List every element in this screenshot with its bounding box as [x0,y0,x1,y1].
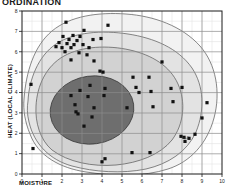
data-point [148,151,151,154]
ordination-scatter-plot: n=2 012345678910 012345678 [0,0,229,192]
y-tick-label: 1 [15,150,18,156]
data-point [63,50,66,53]
data-point [205,101,208,104]
cluster-annotation: n=2 [183,136,189,140]
y-tick-label: 0 [15,171,18,177]
data-point [71,34,74,37]
data-point [78,35,81,38]
x-tick-label: 4 [101,178,104,184]
data-point [160,60,163,63]
x-tick-label: 3 [81,178,84,184]
data-point [130,151,133,154]
data-point [101,71,104,74]
data-point [180,86,183,89]
data-point [134,86,137,89]
x-tick-label: 8 [181,178,184,184]
data-point [60,46,63,49]
data-point [72,43,75,46]
data-point [125,106,128,109]
x-tick-label: 10 [219,178,225,184]
data-point [31,147,34,150]
data-point [169,87,172,90]
x-tick-label: 2 [61,178,64,184]
data-point [91,38,94,41]
data-point [200,116,203,119]
x-axis-label: MOISTURE [19,180,52,186]
data-point [86,95,89,98]
data-point [78,89,81,92]
y-axis-label: HEAT (LOCAL CLIMATE) [7,61,13,141]
data-point [100,160,103,163]
x-tick-label: 6 [141,178,144,184]
data-point [102,94,105,97]
data-point [76,112,79,115]
data-point [183,140,186,143]
data-point [171,100,174,103]
data-point [87,46,90,49]
data-point [69,94,72,97]
data-point [69,58,72,61]
y-tick-label: 3 [15,110,18,116]
data-point [147,76,150,79]
data-point [29,83,32,86]
data-point [54,45,57,48]
x-tick-label: 7 [161,178,164,184]
y-tick-label: 2 [15,130,18,136]
data-point [75,39,78,42]
data-point [82,29,85,32]
ordination-figure: ORDINATION [0,0,229,192]
data-point [82,125,85,128]
data-point [103,157,106,160]
y-tick-label: 6 [15,49,18,55]
data-point [88,84,91,87]
data-point [92,59,95,62]
data-point [85,53,88,56]
data-point [77,51,80,54]
y-tick-label: 4 [15,89,18,95]
data-point [131,76,134,79]
data-point [90,115,93,118]
data-point [149,90,152,93]
data-point [103,87,106,90]
data-point [193,133,196,136]
data-point [99,37,102,40]
data-point [69,46,72,49]
data-point [151,105,154,108]
y-tick-label: 8 [15,8,18,14]
data-point [92,106,95,109]
data-point [73,103,76,106]
x-tick-label: 9 [201,178,204,184]
data-point [106,24,109,27]
x-tick-label: 5 [121,178,124,184]
data-point [98,70,101,73]
data-point [64,21,67,24]
data-point [65,42,68,45]
y-axis-ticks: 012345678 [15,8,22,177]
y-tick-label: 5 [15,69,18,75]
y-tick-label: 7 [15,28,18,34]
data-point [137,91,140,94]
data-point [57,41,60,44]
data-point [61,35,64,38]
data-point [81,43,84,46]
data-point [67,38,70,41]
